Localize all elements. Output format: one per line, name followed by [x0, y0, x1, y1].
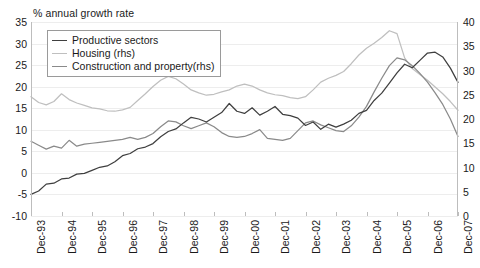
y-axis-left-line: [31, 22, 32, 216]
gridline: [31, 216, 458, 217]
x-axis-tick-label: Dec-06: [432, 220, 444, 254]
legend-item: Productive sectors: [52, 34, 214, 47]
y-axis-left-tick-label: 25: [1, 59, 27, 71]
y-axis-right-tick-label: 35: [463, 40, 480, 52]
legend-item-label: Construction and property(rhs): [72, 60, 214, 73]
x-axis-tick-label: Dec-07: [462, 220, 474, 254]
chart-axis-title: % annual growth rate: [33, 7, 134, 19]
x-axis-tick-label: Dec-04: [371, 220, 383, 254]
x-axis-tick-label: Dec-98: [188, 220, 200, 254]
x-axis-tick-label: Dec-99: [218, 220, 230, 254]
y-axis-right-tick-label: 5: [463, 186, 480, 198]
x-axis-tick-label: Dec-03: [340, 220, 352, 254]
y-axis-left-tick-label: -5: [1, 188, 27, 200]
y-axis-right-line: [457, 22, 458, 216]
chart-legend: Productive sectorsHousing (rhs)Construct…: [47, 30, 221, 77]
legend-swatch-icon: [52, 53, 67, 54]
x-axis-tick-mark: [458, 212, 459, 216]
x-axis-tick-label: Dec-96: [127, 220, 139, 254]
x-axis-tick-label: Dec-01: [279, 220, 291, 254]
y-axis-left-tick-label: -10: [1, 210, 27, 222]
y-axis-left-tick-label: 5: [1, 145, 27, 157]
y-axis-left-tick-label: 0: [1, 167, 27, 179]
x-axis-tick-label: Dec-97: [157, 220, 169, 254]
x-axis-tick-label: Dec-00: [249, 220, 261, 254]
y-axis-left-tick-label: 10: [1, 124, 27, 136]
y-axis-left-tick-label: 20: [1, 81, 27, 93]
y-axis-left-tick-label: 30: [1, 38, 27, 50]
y-axis-left-tick-label: 15: [1, 102, 27, 114]
y-axis-right-tick-label: 20: [463, 113, 480, 125]
legend-swatch-icon: [52, 40, 67, 41]
legend-item-label: Productive sectors: [72, 34, 158, 47]
x-axis-tick-label: Dec-95: [96, 220, 108, 254]
x-axis-tick-label: Dec-93: [35, 220, 47, 254]
legend-item: Housing (rhs): [52, 47, 214, 60]
x-axis-tick-label: Dec-05: [401, 220, 413, 254]
legend-item-label: Housing (rhs): [72, 47, 135, 60]
x-axis-tick-label: Dec-02: [310, 220, 322, 254]
y-axis-right-tick-label: 40: [463, 16, 480, 28]
y-axis-right-tick-label: 15: [463, 137, 480, 149]
y-axis-right-tick-label: 30: [463, 65, 480, 77]
y-axis-left-tick-label: 35: [1, 16, 27, 28]
y-axis-right-tick-label: 25: [463, 89, 480, 101]
x-axis-tick-label: Dec-94: [66, 220, 78, 254]
legend-swatch-icon: [52, 66, 67, 67]
legend-item: Construction and property(rhs): [52, 60, 214, 73]
chart-container: % annual growth rate 35302520151050-5-10…: [0, 0, 480, 268]
y-axis-right-tick-label: 10: [463, 162, 480, 174]
